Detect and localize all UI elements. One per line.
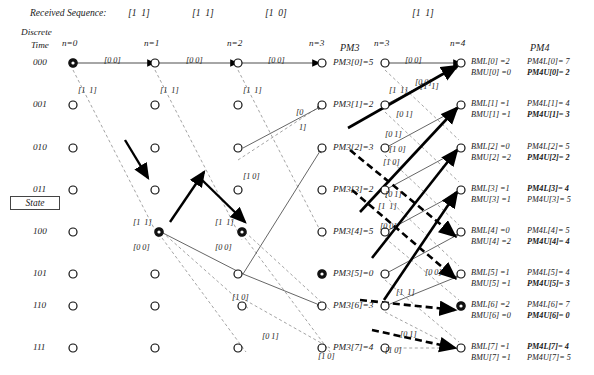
- bml-value-2: BML[2] =0: [471, 142, 510, 151]
- discrete-time-label-line1: Discrete: [21, 27, 52, 37]
- bmu-value-2: BMU[2] =2: [471, 153, 511, 162]
- pm3-value-5: PM3[5]=0: [333, 268, 373, 278]
- received-symbol-3: [1 1]: [412, 7, 434, 18]
- pm4u-value-4: PM4U[4]= 4: [527, 237, 570, 246]
- right-branch-label-14: [0 0]: [415, 78, 432, 87]
- right-branch-label-1: [1 1]: [389, 86, 408, 95]
- bml-value-3: BML[3] =1: [471, 184, 510, 193]
- left-dashed-branches: [73, 70, 330, 352]
- left-branch-label-9: [0 0]: [133, 243, 150, 252]
- pm4l-value-6: PM4L[6]= 7: [527, 300, 570, 309]
- discrete-time-label-line2: Time: [31, 40, 49, 50]
- stage-label-n3-left: n=3: [309, 38, 324, 48]
- state-label-001: 001: [33, 99, 47, 109]
- bmu-value-3: BMU[3] =1: [471, 195, 511, 204]
- trellis-diagram-canvas: Received Sequence: [1 1] [1 1] [1 0] [1 …: [0, 0, 594, 375]
- pm4l-value-4: PM4L[4]= 5: [527, 226, 570, 235]
- right-branch-label-11: [1 1]: [396, 288, 415, 297]
- received-symbol-0: [1 1]: [128, 7, 150, 18]
- pm3-value-7: PM3[7]=4: [333, 342, 373, 352]
- pm4l-value-5: PM4L[5]= 4: [527, 268, 570, 277]
- pm3-column-title: PM3: [340, 42, 359, 53]
- right-branch-label-10: [0 0]: [425, 268, 442, 277]
- right-branch-label-8: [1 1]: [378, 202, 397, 211]
- received-sequence-label: Received Sequence:: [30, 7, 106, 18]
- bml-value-6: BML[6] =2: [471, 300, 510, 309]
- state-label-100: 100: [33, 226, 47, 236]
- pm4u-value-7: PM4U[7]= 5: [527, 353, 571, 362]
- right-branch-label-13: [1 0]: [385, 346, 402, 355]
- right-branch-label-9: [0 0]: [380, 222, 397, 231]
- pm4u-value-3: PM4U[3]= 5: [527, 195, 571, 204]
- stage-label-n1: n=1: [144, 38, 159, 48]
- left-branch-label-12: [0 1]: [262, 332, 279, 341]
- right-branch-label-7: [0 1]: [385, 190, 402, 199]
- stage-label-n2: n=2: [227, 38, 242, 48]
- left-branch-label-10: [0 0]: [215, 243, 232, 252]
- bmu-value-0: BMU[0] =0: [471, 68, 511, 77]
- pm3-value-0: PM3[0]=5: [333, 57, 373, 67]
- pm3-value-3: PM3[3]=2: [333, 184, 373, 194]
- stage-label-n4: n=4: [450, 38, 465, 48]
- right-branch-label-4: [0 1]: [385, 130, 402, 139]
- bmu-value-7: BMU[7] =1: [471, 353, 511, 362]
- left-branch-label-3: [1 1]: [78, 86, 97, 95]
- pm4u-value-0: PM4U[0]= 2: [527, 68, 570, 77]
- pm4l-value-0: PM4L[0]= 7: [527, 57, 570, 66]
- stage-label-n0: n=0: [62, 38, 77, 48]
- state-label-101: 101: [33, 268, 47, 278]
- left-trellis-nodes: [69, 59, 326, 352]
- left-branch-label-15: 1]: [299, 123, 306, 132]
- pm4u-value-6: PM4U[6]= 0: [527, 311, 570, 320]
- left-branch-label-1: [0 0]: [186, 56, 203, 65]
- bml-value-1: BML[1] =1: [471, 99, 510, 108]
- received-symbol-2: [1 0]: [265, 7, 287, 18]
- right-branch-label-5: [1 0]: [389, 145, 406, 154]
- right-branch-label-0: [0 0]: [405, 56, 422, 65]
- pm4u-value-5: PM4U[5]= 3: [527, 279, 570, 288]
- stage-label-n3-right: n=3: [374, 38, 389, 48]
- right-branch-label-3: [0 1]: [396, 110, 413, 119]
- right-branch-label-12: [0 1]: [400, 330, 417, 339]
- left-branch-label-4: [1 1]: [160, 86, 179, 95]
- state-label-000: 000: [33, 57, 47, 67]
- state-label-110: 110: [33, 300, 46, 310]
- left-branch-label-8: [1 1]: [215, 218, 234, 227]
- left-branch-label-11: [1 0]: [232, 293, 249, 302]
- bmu-value-6: BMU[6] =0: [471, 311, 511, 320]
- left-branch-label-14: [0: [296, 108, 303, 117]
- left-branch-label-2: [0 0]: [268, 56, 285, 65]
- state-label-010: 010: [33, 142, 47, 152]
- pm4l-value-3: PM4L[3]= 4: [527, 184, 569, 193]
- emphasis-arrows: [125, 140, 245, 222]
- pm4u-value-1: PM4U[1]= 3: [527, 110, 570, 119]
- pm4u-value-2: PM4U[2]= 2: [527, 153, 570, 162]
- bml-value-0: BML[0] =2: [471, 57, 510, 66]
- pm4l-value-1: PM4L[1]= 4: [527, 99, 570, 108]
- right-branch-label-6: [1 0]: [383, 158, 400, 167]
- pm3-value-4: PM3[4]=5: [333, 226, 373, 236]
- pm3-value-6: PM3[6]=3: [333, 300, 373, 310]
- pm3-value-2: PM3[2]=3: [333, 142, 373, 152]
- bml-value-4: BML[4] =0: [471, 226, 510, 235]
- pm3-value-1: PM3[1]=2: [333, 99, 373, 109]
- left-branch-label-7: [1 1]: [133, 218, 152, 227]
- bmu-value-5: BMU[5] =1: [471, 279, 511, 288]
- state-label-011: 011: [33, 184, 46, 194]
- bml-value-5: BML[5] =1: [471, 268, 510, 277]
- pm4l-value-7: PM4L[7]= 4: [527, 342, 569, 351]
- received-symbol-1: [1 1]: [192, 7, 214, 18]
- left-branch-label-13: [1 0]: [318, 352, 335, 361]
- bmu-value-1: BMU[1] =1: [471, 110, 511, 119]
- survivor-paths-dashed: [350, 150, 455, 348]
- bmu-value-4: BMU[4] =2: [471, 237, 511, 246]
- bml-value-7: BML[7] =1: [471, 342, 510, 351]
- pm4l-value-2: PM4L[2]= 5: [527, 142, 570, 151]
- state-axis-box: State: [10, 196, 60, 210]
- left-branch-label-5: [1 1]: [243, 86, 262, 95]
- left-branch-label-0: [0 0]: [104, 56, 121, 65]
- state-label-111: 111: [33, 342, 45, 352]
- pm4-column-title: PM4: [530, 42, 549, 53]
- left-branch-label-6: [1 0]: [243, 172, 260, 181]
